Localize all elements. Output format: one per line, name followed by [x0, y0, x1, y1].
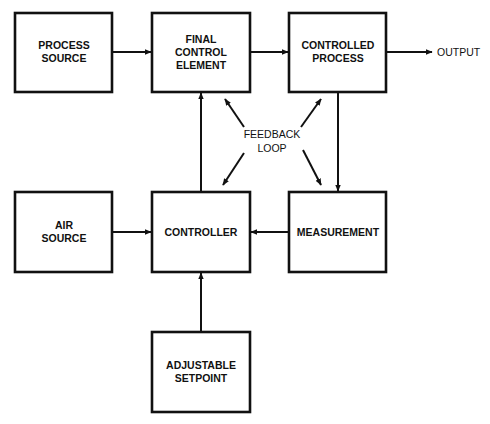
control-loop-diagram: PROCESS SOURCE FINAL CONTROL ELEMENT CON…: [0, 0, 490, 424]
block-process-source: PROCESS SOURCE: [15, 13, 112, 92]
feedback-arrow-to-controller: [223, 153, 244, 185]
output-label: OUTPUT: [437, 46, 481, 58]
block-adjustable-setpoint: ADJUSTABLE SETPOINT: [152, 332, 250, 412]
final-control-element-label-line2: CONTROL: [175, 46, 227, 58]
feedback-arrow-to-controlled-process: [301, 99, 321, 127]
block-air-source: AIR SOURCE: [15, 192, 112, 272]
final-control-element-label-line3: ELEMENT: [176, 59, 227, 71]
block-controller: CONTROLLER: [152, 192, 250, 272]
final-control-element-label-line1: FINAL: [186, 33, 217, 45]
block-measurement: MEASUREMENT: [289, 192, 386, 272]
feedback-loop-label-line1: FEEDBACK: [244, 128, 301, 140]
feedback-arrow-to-final-control: [225, 99, 244, 127]
block-final-control-element: FINAL CONTROL ELEMENT: [152, 13, 250, 92]
controller-label: CONTROLLER: [165, 226, 238, 238]
feedback-loop-label-line2: LOOP: [257, 142, 286, 154]
controlled-process-label-line1: CONTROLLED: [302, 39, 375, 51]
controlled-process-label-line2: PROCESS: [312, 52, 363, 64]
measurement-label: MEASUREMENT: [297, 226, 380, 238]
adjustable-setpoint-label-line2: SETPOINT: [175, 372, 228, 384]
block-controlled-process: CONTROLLED PROCESS: [289, 13, 386, 92]
air-source-label-line2: SOURCE: [42, 232, 87, 244]
air-source-label-line1: AIR: [55, 219, 74, 231]
feedback-arrow-to-measurement: [303, 150, 321, 185]
adjustable-setpoint-label-line1: ADJUSTABLE: [166, 359, 236, 371]
process-source-label-line1: PROCESS: [38, 39, 89, 51]
process-source-label-line2: SOURCE: [42, 52, 87, 64]
